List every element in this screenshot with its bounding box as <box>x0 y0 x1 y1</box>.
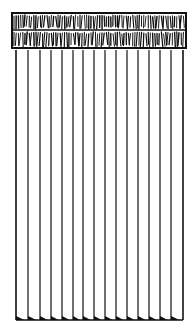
valance <box>12 13 186 48</box>
blind-slats <box>16 50 183 320</box>
vertical-blinds-illustration <box>0 0 195 335</box>
